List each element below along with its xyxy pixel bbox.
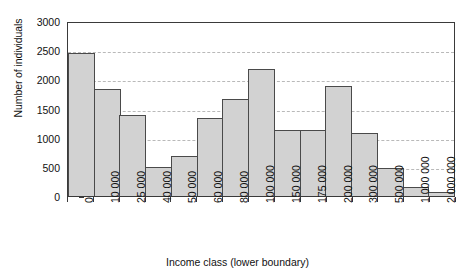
x-tick-mark	[67, 197, 68, 202]
x-tick-label: 500 000	[394, 165, 405, 203]
x-tick-label: 100 000	[265, 165, 276, 203]
x-tick-label: 200 000	[343, 165, 354, 203]
y-tick-label: 1500	[18, 105, 60, 115]
y-axis-ticks: 050010001500200025003000	[18, 22, 60, 197]
x-tick-label: 300 000	[368, 165, 379, 203]
x-axis-title: Income class (lower boundary)	[0, 256, 475, 268]
x-axis-tick-labels: 010 00025 00040 00050 00060 00080 000100…	[67, 203, 455, 258]
x-tick-label: 150 000	[291, 165, 302, 203]
y-tick-label: 1000	[18, 134, 60, 144]
x-tick-label: 175 000	[317, 165, 328, 203]
x-tick-label: 60 000	[213, 171, 224, 203]
x-tick-label: 1 000 000	[420, 156, 431, 203]
y-tick-label: 2500	[18, 46, 60, 56]
x-tick-label: 10 000	[110, 171, 121, 203]
y-tick-label: 2000	[18, 75, 60, 85]
x-tick-label: 40 000	[162, 171, 173, 203]
x-tick-label: 2 000 000	[446, 156, 457, 203]
bar	[68, 53, 95, 197]
x-tick-label: 50 000	[187, 171, 198, 203]
histogram-chart: Number of individuals 050010001500200025…	[0, 0, 475, 275]
x-tick-label: 0	[84, 197, 95, 203]
x-tick-label: 25 000	[136, 171, 147, 203]
y-tick-label: 3000	[18, 17, 60, 27]
y-tick-label: 0	[18, 192, 60, 202]
y-tick-label: 500	[18, 163, 60, 173]
x-tick-label: 80 000	[239, 171, 250, 203]
